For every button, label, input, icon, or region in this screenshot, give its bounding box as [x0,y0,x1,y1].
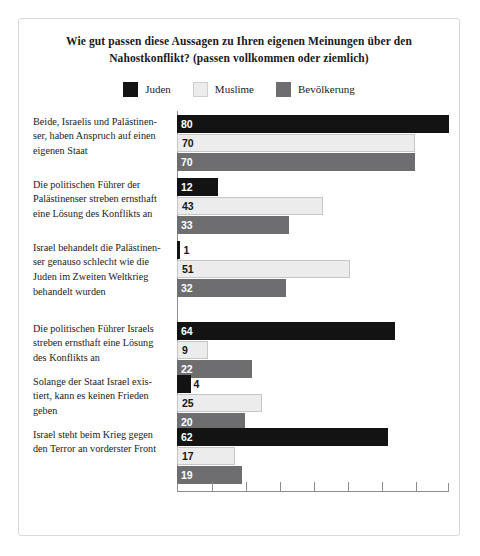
bar-track: 62 [177,428,459,446]
bar-value-label: 4 [194,375,200,393]
bar-value-label: 9 [182,341,188,359]
bar-track: 64 [177,322,459,340]
legend-item: Juden [123,82,171,97]
bar-track: 80 [177,115,459,133]
bar-value-label: 32 [181,279,193,297]
x-axis-tick [382,482,383,491]
bar-value-label: 70 [182,134,194,152]
legend-swatch-icon [276,82,291,97]
chart-frame: Wie gut passen diese Aussagen zu Ihren e… [18,18,460,536]
category-label: Israel steht beim Krieg gegenden Terror … [19,428,177,458]
chart-category-group: Solange der Staat Israel exis-tiert, kan… [19,375,459,432]
category-label: Beide, Israelis und Palästinen-ser, habe… [19,115,177,159]
bar-track: 4 [177,375,459,393]
bar-track: 33 [177,216,459,234]
bar-value-label: 62 [181,428,193,446]
legend-item: Muslime [193,82,254,97]
x-axis-tick [280,482,281,491]
category-label: Die politischen Führer derPalästinenser … [19,178,177,222]
chart-category-group: Die politischen Führer derPalästinenser … [19,178,459,235]
x-axis-tick [246,482,247,491]
bar-track: 70 [177,134,459,152]
bar-group: 807070 [177,115,459,172]
bar-value-label: 64 [181,322,193,340]
bar-value-label: 51 [182,260,194,278]
bar-group: 15132 [177,241,459,298]
plot-area: Beide, Israelis und Palästinen-ser, habe… [19,111,459,491]
bar-muslime[interactable] [177,134,415,152]
x-axis [177,483,449,492]
legend-label: Bevölkerung [298,83,355,95]
chart-category-group: Israel steht beim Krieg gegenden Terror … [19,428,459,485]
bar-muslime[interactable] [177,197,323,215]
bar-juden[interactable] [177,115,449,133]
bar-value-label: 12 [181,178,193,196]
bar-track: 1 [177,241,459,259]
legend-label: Juden [145,83,171,95]
bar-bevölkerung[interactable] [177,279,286,297]
bar-track: 25 [177,394,459,412]
bar-group: 64922 [177,322,459,379]
bar-bevölkerung[interactable] [177,216,289,234]
chart-title: Wie gut passen diese Aussagen zu Ihren e… [41,33,437,68]
bar-value-label: 19 [181,466,193,484]
category-label: Solange der Staat Israel exis-tiert, kan… [19,375,177,419]
chart-title-line-1: Wie gut passen diese Aussagen zu Ihren e… [66,35,412,47]
bar-track: 70 [177,153,459,171]
legend-label: Muslime [215,83,254,95]
bar-muslime[interactable] [177,260,350,278]
chart-legend: JudenMuslimeBevölkerung [19,82,459,97]
bar-juden[interactable] [177,428,388,446]
bar-juden[interactable] [177,375,191,393]
x-axis-tick [416,482,417,491]
category-label: Israel behandelt die Palästinen-ser gena… [19,241,177,300]
bar-track: 9 [177,341,459,359]
bar-group: 42520 [177,375,459,432]
bar-group: 124333 [177,178,459,235]
chart-title-line-2: Nahostkonflikt? (passen vollkommen oder … [109,52,369,64]
bar-group: 621719 [177,428,459,485]
legend-swatch-icon [193,82,208,97]
bar-track: 12 [177,178,459,196]
bar-value-label: 43 [182,197,194,215]
x-axis-tick [314,482,315,491]
legend-item: Bevölkerung [276,82,355,97]
bar-juden[interactable] [177,322,395,340]
bar-value-label: 80 [181,115,193,133]
category-label: Die politischen Führer Israelsstreben er… [19,322,177,366]
x-axis-tick [212,482,213,491]
chart-category-group: Die politischen Führer Israelsstreben er… [19,322,459,379]
x-axis-tick [348,482,349,491]
legend-swatch-icon [123,82,138,97]
bar-bevölkerung[interactable] [177,153,415,171]
bar-track: 32 [177,279,459,297]
chart-category-group: Beide, Israelis und Palästinen-ser, habe… [19,115,459,172]
chart-category-group: Israel behandelt die Palästinen-ser gena… [19,241,459,300]
bar-track: 17 [177,447,459,465]
bar-value-label: 33 [181,216,193,234]
bar-value-label: 25 [182,394,194,412]
bar-juden[interactable] [177,241,180,259]
bar-track: 51 [177,260,459,278]
bar-value-label: 70 [181,153,193,171]
bar-track: 43 [177,197,459,215]
bar-value-label: 17 [182,447,194,465]
bar-value-label: 1 [183,241,189,259]
